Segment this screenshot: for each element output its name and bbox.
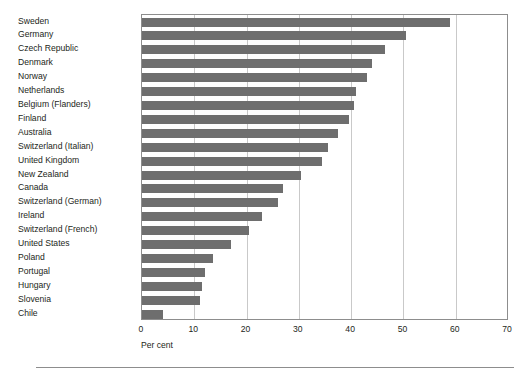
x-axis-label: Per cent <box>141 340 173 350</box>
x-tick-label-70: 70 <box>492 324 522 334</box>
bar <box>142 101 354 110</box>
category-label: Canada <box>18 183 136 192</box>
category-label: Czech Republic <box>18 44 136 53</box>
x-tick-label-0: 0 <box>126 324 156 334</box>
gridline-50 <box>403 15 404 319</box>
bar <box>142 143 328 152</box>
category-label: Switzerland (Italian) <box>18 142 136 151</box>
category-label: Australia <box>18 128 136 137</box>
bar <box>142 18 450 27</box>
gridline-60 <box>456 15 457 319</box>
bar <box>142 240 231 249</box>
category-label: Poland <box>18 253 136 262</box>
x-tick-label-40: 40 <box>335 324 365 334</box>
x-tick-label-10: 10 <box>178 324 208 334</box>
x-tick-label-60: 60 <box>440 324 470 334</box>
bar <box>142 129 338 138</box>
bar <box>142 212 262 221</box>
plot-area <box>141 14 508 320</box>
category-label: Germany <box>18 30 136 39</box>
x-tick-label-20: 20 <box>231 324 261 334</box>
bar <box>142 31 406 40</box>
category-label: Finland <box>18 114 136 123</box>
category-label: Belgium (Flanders) <box>18 100 136 109</box>
bar <box>142 282 202 291</box>
category-label: Sweden <box>18 17 136 26</box>
x-tick-label-30: 30 <box>283 324 313 334</box>
category-label: Denmark <box>18 58 136 67</box>
bar <box>142 268 205 277</box>
footer-divider <box>36 367 514 368</box>
bar <box>142 87 356 96</box>
bar <box>142 73 367 82</box>
category-label: United States <box>18 239 136 248</box>
x-tick-label-50: 50 <box>387 324 417 334</box>
category-label: United Kingdom <box>18 156 136 165</box>
bar <box>142 226 249 235</box>
category-label: Portugal <box>18 267 136 276</box>
bar <box>142 198 278 207</box>
bar <box>142 171 301 180</box>
category-label: Slovenia <box>18 295 136 304</box>
category-axis: SwedenGermanyCzech RepublicDenmarkNorway… <box>18 14 136 320</box>
category-label: New Zealand <box>18 170 136 179</box>
bar <box>142 184 283 193</box>
category-label: Switzerland (German) <box>18 197 136 206</box>
bar <box>142 254 213 263</box>
category-label: Netherlands <box>18 86 136 95</box>
bar <box>142 45 385 54</box>
bar <box>142 157 322 166</box>
chart-figure: SwedenGermanyCzech RepublicDenmarkNorway… <box>0 0 528 375</box>
category-label: Switzerland (French) <box>18 225 136 234</box>
category-label: Ireland <box>18 211 136 220</box>
category-label: Chile <box>18 309 136 318</box>
bar <box>142 296 200 305</box>
category-label: Hungary <box>18 281 136 290</box>
bar <box>142 115 349 124</box>
category-label: Norway <box>18 72 136 81</box>
bar <box>142 59 372 68</box>
bar <box>142 310 163 319</box>
